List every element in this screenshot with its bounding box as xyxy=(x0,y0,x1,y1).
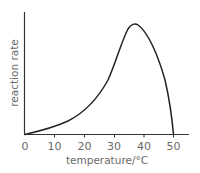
y-axis-title: reaction rate xyxy=(8,39,20,107)
x-axis xyxy=(24,134,189,138)
x-tick-label: 10 xyxy=(48,140,62,153)
chart: 0 10 20 30 40 50 temperature/°C reaction… xyxy=(0,0,200,173)
x-tick-labels: 0 10 20 30 40 50 xyxy=(22,140,181,153)
x-tick-label: 40 xyxy=(137,140,151,153)
x-axis-title: temperature/°C xyxy=(66,154,148,166)
x-tick-label: 0 xyxy=(22,140,29,153)
reaction-rate-curve xyxy=(25,24,174,134)
x-tick-label: 50 xyxy=(167,140,181,153)
x-tick-label: 30 xyxy=(107,140,121,153)
x-tick-label: 20 xyxy=(78,140,92,153)
